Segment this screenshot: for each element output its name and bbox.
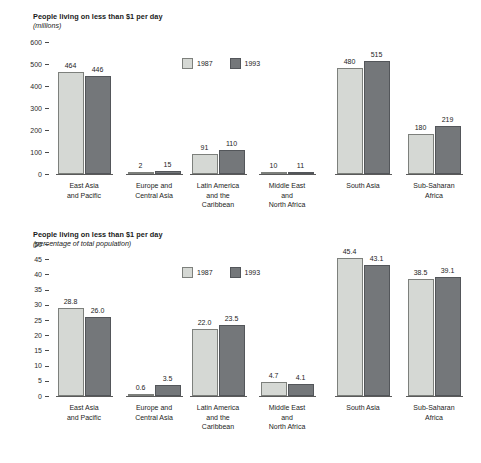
bar — [408, 134, 434, 174]
y-axis-tick-label: 500 — [0, 61, 42, 68]
bar — [435, 126, 461, 174]
y-axis-tick-mark — [45, 381, 49, 382]
bar — [58, 72, 84, 174]
axis-baseline — [56, 396, 113, 397]
axis-baseline — [190, 396, 247, 397]
axis-baseline — [56, 174, 113, 175]
bar-value-label: 110 — [212, 140, 252, 148]
bar-value-label: 4.1 — [281, 374, 321, 382]
axis-baseline — [126, 396, 183, 397]
axis-baseline — [126, 174, 183, 175]
y-axis-tick-label: 0 — [0, 393, 42, 400]
legend-item-1993[interactable]: 1993 — [230, 58, 261, 69]
axis-baseline — [190, 174, 247, 175]
y-axis-tick-mark — [45, 305, 49, 306]
y-axis-tick-label: 100 — [0, 149, 42, 156]
y-axis-tick-label: 35 — [0, 286, 42, 293]
legend-label: 1987 — [197, 60, 213, 67]
bar — [288, 384, 314, 396]
bar — [155, 385, 181, 396]
plot-area-millions: 600500400300200100019871993464446East As… — [0, 0, 481, 234]
y-axis-tick-label: 5 — [0, 377, 42, 384]
legend-item-1987[interactable]: 1987 — [182, 58, 213, 69]
axis-baseline — [335, 396, 392, 397]
x-axis-category-label: Sub-SaharanAfrica — [392, 403, 476, 422]
legend-item-1987[interactable]: 1987 — [182, 267, 213, 278]
bar — [85, 317, 111, 396]
bar — [261, 382, 287, 396]
legend-swatch-icon-1987 — [182, 58, 193, 69]
bar-value-label: 26.0 — [78, 307, 118, 315]
y-axis-tick-mark — [45, 259, 49, 260]
legend-item-1993[interactable]: 1993 — [230, 267, 261, 278]
y-axis-tick-mark — [45, 350, 49, 351]
y-axis-tick-mark — [45, 86, 49, 87]
legend-label: 1987 — [197, 269, 213, 276]
y-axis-tick-mark — [45, 290, 49, 291]
bar-value-label: 23.5 — [212, 315, 252, 323]
axis-baseline — [406, 174, 463, 175]
y-axis-tick-mark — [45, 320, 49, 321]
y-axis-tick-mark — [45, 396, 49, 397]
axis-baseline — [335, 174, 392, 175]
y-axis-tick-label: 25 — [0, 317, 42, 324]
legend-swatch-icon-1993 — [230, 267, 241, 278]
bar — [192, 329, 218, 396]
bar — [337, 68, 363, 174]
y-axis-tick-label: 0 — [0, 171, 42, 178]
x-axis-category-label: Middle EastandNorth Africa — [245, 181, 329, 210]
chart-legend: 19871993 — [182, 58, 260, 69]
y-axis-tick-mark — [45, 152, 49, 153]
y-axis-tick-label: 50 — [0, 241, 42, 248]
bar — [58, 308, 84, 396]
bar — [435, 277, 461, 396]
bar-value-label: 15 — [148, 161, 188, 169]
bar — [219, 150, 245, 174]
legend-swatch-icon-1993 — [230, 58, 241, 69]
bar-value-label: 3.5 — [148, 375, 188, 383]
axis-baseline — [259, 396, 316, 397]
y-axis-tick-label: 10 — [0, 362, 42, 369]
y-axis-tick-label: 200 — [0, 127, 42, 134]
bar-value-label: 446 — [78, 66, 118, 74]
y-axis-tick-label: 20 — [0, 332, 42, 339]
y-axis-tick-mark — [45, 108, 49, 109]
y-axis-tick-mark — [45, 64, 49, 65]
chart-panel-percentage: People living on less than $1 per day (p… — [0, 222, 481, 463]
chart-panel-millions: People living on less than $1 per day (m… — [0, 0, 481, 232]
y-axis-tick-mark — [45, 130, 49, 131]
bar-value-label: 28.8 — [51, 298, 91, 306]
y-axis-tick-label: 30 — [0, 301, 42, 308]
chart-legend: 19871993 — [182, 267, 260, 278]
legend-label: 1993 — [245, 60, 261, 67]
y-axis-tick-label: 300 — [0, 105, 42, 112]
bar — [219, 325, 245, 396]
y-axis-tick-label: 400 — [0, 83, 42, 90]
bar-value-label: 39.1 — [428, 267, 468, 275]
y-axis-tick-mark — [45, 244, 49, 245]
y-axis-tick-mark — [45, 366, 49, 367]
bar — [85, 76, 111, 174]
plot-area-percentage: 504540353025201510501987199328.826.0East… — [0, 222, 481, 456]
y-axis-tick-mark — [45, 174, 49, 175]
y-axis-tick-label: 40 — [0, 271, 42, 278]
bar-value-label: 43.1 — [357, 255, 397, 263]
y-axis-tick-label: 15 — [0, 347, 42, 354]
legend-swatch-icon-1987 — [182, 267, 193, 278]
bar-value-label: 11 — [281, 162, 321, 170]
bar — [364, 265, 390, 396]
y-axis-tick-mark — [45, 42, 49, 43]
bar-value-label: 515 — [357, 51, 397, 59]
bar — [364, 61, 390, 174]
bar — [192, 154, 218, 174]
bar-value-label: 219 — [428, 116, 468, 124]
x-axis-category-label: Sub-SaharanAfrica — [392, 181, 476, 200]
y-axis-tick-label: 600 — [0, 39, 42, 46]
y-axis-tick-mark — [45, 274, 49, 275]
bar — [337, 258, 363, 396]
legend-label: 1993 — [245, 269, 261, 276]
x-axis-category-label: Middle EastandNorth Africa — [245, 403, 329, 432]
axis-baseline — [406, 396, 463, 397]
bar — [408, 279, 434, 396]
axis-baseline — [259, 174, 316, 175]
